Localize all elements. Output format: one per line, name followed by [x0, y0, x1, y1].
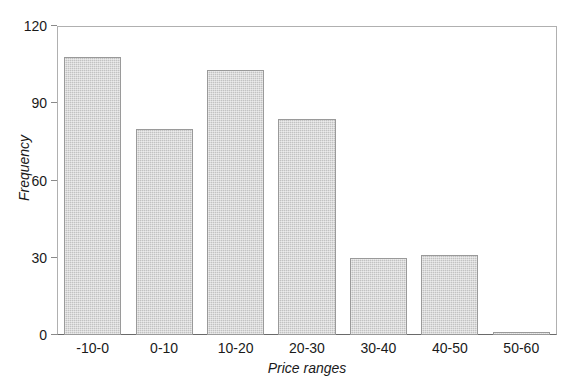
- y-axis-tick-label: 120: [24, 16, 47, 36]
- bar: [493, 332, 550, 335]
- bar: [350, 258, 407, 335]
- bar: [136, 129, 193, 335]
- x-axis-tick-label: 40-50: [414, 338, 485, 358]
- x-axis-title: Price ranges: [57, 360, 557, 376]
- bar-chart: Frequency 0306090120 -10-00-1010-2020-30…: [0, 0, 572, 391]
- y-axis-tick-label: 30: [31, 248, 47, 268]
- x-axis-tick-label: 50-60: [486, 338, 557, 358]
- x-axis-tick-label: 30-40: [343, 338, 414, 358]
- x-axis-tick-label: -10-0: [57, 338, 128, 358]
- y-axis: Frequency 0306090120: [0, 0, 57, 391]
- x-axis-tick-label: 20-30: [271, 338, 342, 358]
- x-axis-tick-label: 10-20: [200, 338, 271, 358]
- x-axis-tick-label: 0-10: [128, 338, 199, 358]
- bar: [207, 70, 264, 335]
- y-axis-tick-label: 60: [31, 171, 47, 191]
- bar: [64, 57, 121, 335]
- bar: [278, 119, 335, 335]
- y-axis-title: Frequency: [16, 108, 32, 228]
- bar: [421, 255, 478, 335]
- y-axis-tick-label: 90: [31, 93, 47, 113]
- bars-layer: [57, 26, 557, 335]
- x-axis: -10-00-1010-2020-3030-4040-5050-60: [57, 338, 557, 362]
- y-axis-tick-label: 0: [39, 325, 47, 345]
